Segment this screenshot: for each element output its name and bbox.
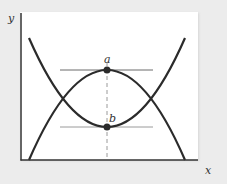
point-a-label: a [104,53,111,66]
x-axis-label: x [205,164,212,177]
point-a [104,67,111,74]
diagram-svg: a b y x [0,0,227,184]
point-b-label: b [109,112,116,125]
y-axis-label: y [7,12,15,25]
